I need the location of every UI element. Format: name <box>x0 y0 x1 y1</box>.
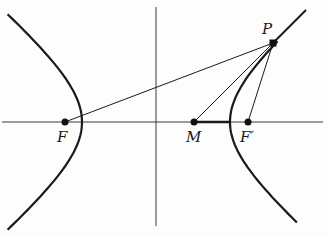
point-M <box>191 119 198 126</box>
point-F-prime <box>245 119 252 126</box>
point-P <box>270 40 277 47</box>
diagram-svg <box>0 0 328 237</box>
label-M: M <box>186 130 201 145</box>
label-F: F <box>57 130 67 145</box>
segment-F-P <box>65 43 273 122</box>
label-F-prime: F′ <box>240 130 254 145</box>
point-F <box>62 119 69 126</box>
label-P: P <box>262 22 272 37</box>
tangent-line-extension <box>273 10 306 43</box>
hyperbola-diagram: F M F′ P <box>0 0 328 237</box>
